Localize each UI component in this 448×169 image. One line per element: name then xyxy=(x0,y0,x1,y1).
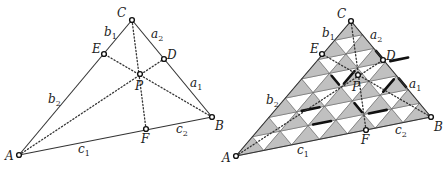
point-p-label: P xyxy=(134,79,144,93)
point-e-label: E xyxy=(309,42,319,56)
point-e-label: E xyxy=(91,42,101,56)
point-c-label: C xyxy=(337,7,346,21)
point-d-label: D xyxy=(166,48,177,62)
point-b-marker xyxy=(210,115,215,120)
point-p-label: P xyxy=(351,80,361,94)
point-e-marker xyxy=(102,52,107,57)
side-labels: b1a2a1b2c1c2 xyxy=(48,25,202,158)
point-c-marker xyxy=(130,18,135,23)
side-label-c2: c2 xyxy=(176,122,188,138)
side-label-a1: a1 xyxy=(409,77,421,93)
side-label-a2: a2 xyxy=(151,27,163,43)
side-label-a1: a1 xyxy=(190,76,202,92)
point-c-marker xyxy=(349,19,354,24)
point-d-marker xyxy=(162,57,167,62)
point-a-marker xyxy=(17,153,22,158)
point-a-marker xyxy=(234,154,239,159)
side-bc xyxy=(132,20,212,117)
side-label-c1: c1 xyxy=(78,142,90,158)
point-a-label: A xyxy=(221,151,231,165)
point-d-label: D xyxy=(385,49,396,63)
side-label-c2: c2 xyxy=(395,123,407,139)
point-a-label: A xyxy=(4,149,14,163)
side-label-b1: b1 xyxy=(104,25,117,41)
point-b-marker xyxy=(429,115,434,120)
right-triangulated-figure: ABCDEFPb1a2a1b2c1c2 xyxy=(221,7,443,165)
point-b-label: B xyxy=(214,119,224,133)
point-f-label: F xyxy=(360,133,370,147)
diagram-canvas: ABCDEFPb1a2a1b2c1c2 ABCDEFPb1a2a1b2c1c2 xyxy=(0,0,448,169)
side-label-b2: b2 xyxy=(48,92,61,108)
point-e-marker xyxy=(320,52,325,57)
side-label-b2: b2 xyxy=(266,93,279,109)
point-b-label: B xyxy=(433,120,443,134)
side-label-b1: b1 xyxy=(322,26,335,42)
point-d-marker xyxy=(381,58,386,63)
side-label-c1: c1 xyxy=(297,143,309,159)
point-c-label: C xyxy=(117,6,126,20)
point-f-label: F xyxy=(140,132,150,146)
side-label-a2: a2 xyxy=(370,28,382,44)
point-p-marker xyxy=(138,72,143,77)
point-f-marker xyxy=(364,128,369,133)
point-f-marker xyxy=(144,127,149,132)
point-p-marker xyxy=(356,73,361,78)
left-triangle-figure: ABCDEFPb1a2a1b2c1c2 xyxy=(4,6,224,163)
